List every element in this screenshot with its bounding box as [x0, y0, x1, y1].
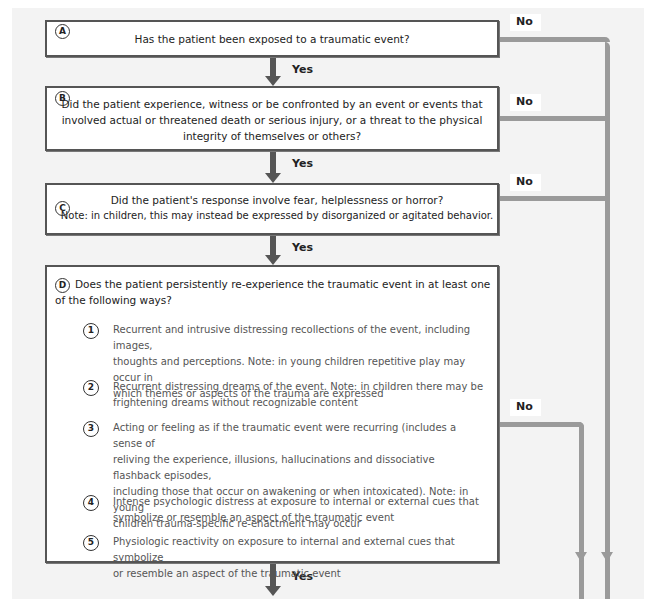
no-connector-c: [498, 196, 608, 201]
badge-1: 1: [83, 323, 99, 339]
no-label-a: No: [510, 14, 541, 31]
node-a-text: Has the patient been exposed to a trauma…: [47, 31, 497, 47]
yes-label-a-b: Yes: [286, 62, 321, 79]
arrow-down-icon: [575, 552, 587, 562]
criterion-item-1: 1 Recurrent and intrusive distressing re…: [83, 322, 483, 372]
no-label-b: No: [510, 94, 541, 111]
node-b-line-2: involved actual or threatened death or s…: [47, 112, 497, 128]
yes-label-b-c: Yes: [286, 156, 321, 173]
criterion-item-5-text: Physiologic reactivity on exposure to in…: [113, 534, 485, 582]
no-connector-b: [498, 116, 608, 121]
criterion-item-4-text: Intense psychologic distress at exposure…: [113, 494, 485, 526]
no-connector-main-vertical: [605, 42, 610, 599]
no-connector-a: [498, 37, 610, 42]
yes-arrow-a-b: [270, 56, 276, 78]
criterion-item-4: 4 Intense psychologic distress at exposu…: [83, 494, 483, 528]
node-d: D Does the patient persistently re-exper…: [45, 265, 499, 563]
item-4-line-1: Intense psychologic distress at exposure…: [113, 494, 485, 510]
item-1-line-1: Recurrent and intrusive distressing reco…: [113, 322, 485, 354]
item-2-line-1: Recurrent distressing dreams of the even…: [113, 379, 485, 395]
no-label-d: No: [510, 399, 541, 416]
arrow-down-icon: [601, 552, 613, 562]
node-c-line-1: Did the patient's response involve fear,…: [57, 192, 497, 208]
criterion-item-5: 5 Physiologic reactivity on exposure to …: [83, 534, 483, 568]
node-b-line-3: integrity of themselves or others?: [47, 128, 497, 144]
item-3-line-1: Acting or feeling as if the traumatic ev…: [113, 420, 485, 452]
node-c: C Did the patient's response involve fea…: [45, 183, 499, 235]
badge-5: 5: [83, 535, 99, 551]
yes-arrow-c-d: [270, 234, 276, 257]
node-c-line-2: Note: in children, this may instead be e…: [57, 208, 497, 224]
item-3-line-2: reliving the experience, illusions, hall…: [113, 452, 485, 484]
node-b: B Did the patient experience, witness or…: [45, 86, 499, 151]
arrow-down-icon: [265, 173, 281, 183]
item-5-line-2: or resemble an aspect of the traumatic e…: [113, 566, 485, 582]
item-2-line-2: frightening dreams without recognizable …: [113, 395, 485, 411]
node-a: A Has the patient been exposed to a trau…: [45, 20, 499, 57]
item-4-line-2: symbolize or resemble an aspect of the t…: [113, 510, 485, 526]
no-label-c: No: [510, 174, 541, 191]
arrow-down-icon: [265, 255, 281, 265]
yes-arrow-b-c: [270, 150, 276, 175]
criterion-item-2: 2 Recurrent distressing dreams of the ev…: [83, 379, 483, 413]
no-connector-d: [498, 422, 584, 427]
badge-2: 2: [83, 380, 99, 396]
no-connector-d-vertical: [579, 422, 584, 599]
yes-label-c-d: Yes: [286, 240, 321, 257]
node-b-line-1: Did the patient experience, witness or b…: [47, 96, 497, 112]
criterion-item-2-text: Recurrent distressing dreams of the even…: [113, 379, 485, 411]
badge-3: 3: [83, 421, 99, 437]
badge-4: 4: [83, 495, 99, 511]
criterion-item-3: 3 Acting or feeling as if the traumatic …: [83, 420, 483, 486]
node-d-line-1: Does the patient persistently re-experie…: [75, 276, 490, 292]
item-5-line-1: Physiologic reactivity on exposure to in…: [113, 534, 485, 566]
node-d-line-2: of the following ways?: [55, 292, 172, 308]
arrow-down-icon: [265, 586, 281, 596]
arrow-down-icon: [265, 76, 281, 86]
badge-d: D: [55, 278, 70, 293]
